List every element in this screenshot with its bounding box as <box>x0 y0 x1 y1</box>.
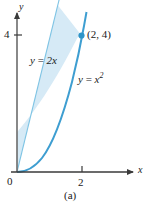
x-tick-label-2: 2 <box>78 177 84 188</box>
point-marker-2-4 <box>78 32 84 38</box>
line-equation-equals: = <box>38 54 44 66</box>
parabola-equation-equals: = <box>86 73 92 85</box>
line-equation-lhs: y <box>30 54 35 66</box>
parabola-equation-exponent: 2 <box>100 71 104 80</box>
parabola-equation-lhs: y <box>78 73 83 85</box>
point-coordinate-label: (2, 4) <box>87 29 111 40</box>
y-tick-label-4: 4 <box>4 29 10 40</box>
figure-caption: (a) <box>64 190 76 201</box>
origin-label: 0 <box>7 176 13 187</box>
plot-canvas <box>0 0 152 210</box>
parabola-equation-label: y = x2 <box>78 72 103 85</box>
y-axis-label: y <box>19 2 23 12</box>
figure-container: y = 2x y = x2 (2, 4) y x 4 2 0 (a) <box>0 0 152 210</box>
line-equation-rhs: 2x <box>47 54 57 66</box>
x-axis-label: x <box>138 165 142 175</box>
line-equation-label: y = 2x <box>30 55 57 66</box>
